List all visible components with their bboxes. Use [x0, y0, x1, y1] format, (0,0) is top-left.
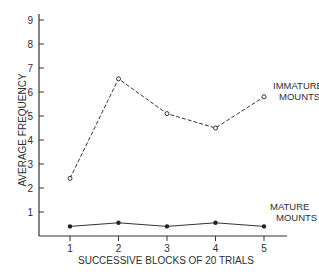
data-point-filled — [262, 224, 266, 228]
series-immature-mounts: IMMATUREMOUNTS — [68, 77, 319, 181]
series-mature-mounts: MATUREMOUNTS — [68, 201, 317, 228]
y-tick-label: 4 — [27, 135, 33, 146]
y-tick-label: 7 — [27, 63, 33, 74]
series-label: MOUNTS — [276, 212, 317, 223]
data-point-open — [165, 112, 169, 116]
data-point-open — [68, 176, 72, 180]
y-tick-label: 5 — [27, 111, 33, 122]
x-axis-label: SUCCESSIVE BLOCKS OF 20 TRIALS — [78, 255, 254, 266]
data-point-filled — [165, 224, 169, 228]
data-point-filled — [68, 224, 72, 228]
data-point-filled — [116, 221, 120, 225]
series-label: IMMATURE — [273, 80, 319, 91]
y-tick-label: 8 — [27, 39, 33, 50]
series-label: MOUNTS — [279, 91, 319, 102]
y-tick-label: 1 — [27, 207, 33, 218]
data-point-open — [214, 126, 218, 130]
data-point-open — [262, 95, 266, 99]
x-tick-label: 1 — [67, 243, 73, 254]
y-tick-label: 3 — [27, 159, 33, 170]
x-tick-label: 5 — [261, 243, 267, 254]
x-tick-label: 2 — [116, 243, 122, 254]
x-tick-label: 3 — [164, 243, 170, 254]
x-axis: 12345 — [39, 236, 287, 254]
y-tick-label: 6 — [27, 87, 33, 98]
y-axis-label: AVERAGE FREQUENCY — [17, 73, 28, 186]
x-tick-label: 4 — [213, 243, 219, 254]
data-point-filled — [213, 221, 217, 225]
series-layer: IMMATUREMOUNTSMATUREMOUNTS — [68, 77, 319, 229]
data-point-open — [117, 77, 121, 81]
line-chart: 123456789 12345 AVERAGE FREQUENCY SUCCES… — [0, 0, 319, 275]
y-tick-label: 2 — [27, 183, 33, 194]
series-label: MATURE — [270, 201, 309, 212]
y-axis: 123456789 — [27, 14, 44, 236]
y-tick-label: 9 — [27, 15, 33, 26]
